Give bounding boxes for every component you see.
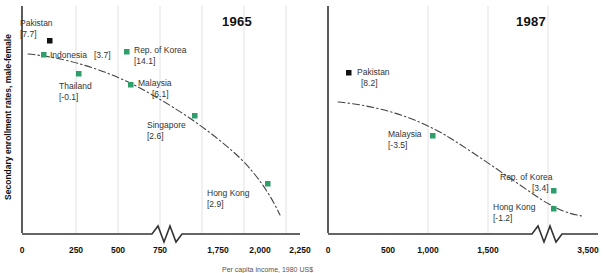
xtick-1987-4: 3,500 (568, 245, 603, 255)
point-label-rep-of-korea-1965: Rep. of Korea [14.1] (134, 45, 186, 66)
gridlines-1987 (428, 6, 548, 233)
panel-title-1965: 1965 (222, 14, 252, 29)
point-name-malaysia-1987: Malaysia (388, 129, 422, 139)
point-label-pakistan-1965: Pakistan [7.7] (20, 18, 53, 39)
trend-line-1987 (338, 102, 582, 216)
point-name-malaysia-1965: Malaysia (138, 78, 172, 88)
xtick-1987-0: 0 (318, 245, 338, 255)
marker-malaysia-1965 (128, 82, 134, 88)
point-value-rep-of-korea-1987: [3.4] (532, 183, 552, 194)
x-axis-line-with-break-1987 (328, 226, 598, 242)
x-axis-line-with-break-1965 (22, 226, 300, 242)
marker-malaysia-1987 (430, 133, 436, 139)
xtick-1965-4: 1,750 (196, 245, 240, 255)
point-label-indonesia-1965: Indonesia [3.7] (50, 50, 111, 61)
point-label-pakistan-1987: Pakistan [8.2] (357, 67, 390, 88)
point-name-hong-kong-1965: Hong Kong (207, 188, 250, 198)
point-name-pakistan-1987: Pakistan (357, 67, 390, 77)
marker-hong-kong-1965 (265, 181, 271, 187)
xtick-1965-1: 250 (56, 245, 96, 255)
plot-area-1987 (310, 0, 603, 272)
point-name-singapore-1965: Singapore (147, 120, 186, 130)
point-name-thailand-1965: Thailand (59, 81, 92, 91)
point-value-rep-of-korea-1965: [14.1] (134, 56, 186, 67)
point-label-singapore-1965: Singapore [2.6] (147, 120, 186, 141)
panel-title-1987: 1987 (516, 14, 546, 29)
point-value-malaysia-1987: [-3.5] (388, 140, 422, 151)
point-label-thailand-1965: Thailand [-0.1] (59, 81, 92, 102)
point-name-hong-kong-1987: Hong Kong (493, 202, 536, 212)
point-value-singapore-1965: [2.6] (147, 131, 186, 142)
point-label-malaysia-1965: Malaysia [6.1] (138, 78, 172, 99)
xtick-1965-0: 0 (12, 245, 32, 255)
point-value-indonesia-1965: [3.7] (94, 50, 111, 60)
point-value-hong-kong-1965: [2.9] (207, 199, 250, 210)
point-value-thailand-1965: [-0.1] (59, 92, 92, 103)
point-name-indonesia-1965: Indonesia (50, 50, 87, 60)
xtick-1987-1: 500 (368, 245, 408, 255)
point-value-malaysia-1965: [6.1] (152, 89, 172, 100)
point-label-rep-of-korea-1987: Rep. of Korea [3.4] (500, 172, 552, 193)
xtick-1965-3: 750 (140, 245, 180, 255)
x-axis-caption: Per capita income, 1980 US$ (222, 266, 313, 273)
marker-thailand-1965 (76, 71, 82, 77)
point-label-hong-kong-1965: Hong Kong [2.9] (207, 188, 250, 209)
marker-indonesia-1965 (41, 52, 47, 58)
xtick-1965-2: 500 (98, 245, 138, 255)
marker-rep-of-korea-1965 (124, 49, 130, 55)
point-value-hong-kong-1987: [-1.2] (493, 213, 536, 224)
point-name-rep-of-korea-1965: Rep. of Korea (134, 45, 186, 55)
chart-panel-1965: Secondary enrollment rates, male-female (0, 0, 310, 272)
marker-singapore-1965 (192, 113, 198, 119)
point-value-pakistan-1965: [7.7] (20, 29, 53, 40)
marker-hong-kong-1987 (551, 206, 557, 212)
marker-pakistan-1987 (346, 70, 352, 76)
point-label-hong-kong-1987: Hong Kong [-1.2] (493, 202, 536, 223)
point-name-pakistan-1965: Pakistan (20, 18, 53, 28)
point-value-pakistan-1987: [8.2] (361, 78, 390, 89)
xtick-1987-3: 1,500 (468, 245, 508, 255)
point-name-rep-of-korea-1987: Rep. of Korea (500, 172, 552, 182)
xtick-1965-5: 2,000 (238, 245, 282, 255)
point-label-malaysia-1987: Malaysia [-3.5] (388, 129, 422, 150)
chart-panel-1987: 1987 Pakistan [8.2] Malaysia [-3.5] Rep.… (310, 0, 603, 272)
xtick-1987-2: 1,000 (408, 245, 448, 255)
